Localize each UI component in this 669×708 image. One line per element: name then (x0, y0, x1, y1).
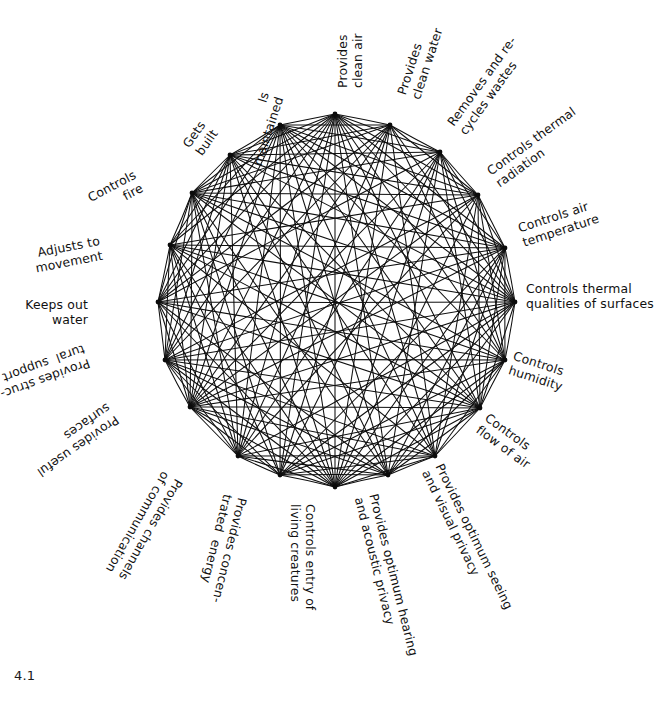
network-vertex[interactable] (503, 246, 508, 251)
network-edge (165, 360, 435, 456)
network-vertex[interactable] (163, 358, 168, 363)
network-vertex[interactable] (388, 123, 393, 128)
network-edge (192, 193, 505, 360)
node-label: Provides clean air (335, 33, 365, 88)
network-edge (230, 155, 478, 195)
network-vertex[interactable] (333, 112, 338, 117)
network-vertex[interactable] (236, 454, 241, 459)
network-edge (335, 114, 505, 248)
network-edge (165, 195, 478, 360)
node-label: Controls entry of living creatures (288, 504, 318, 610)
network-vertex[interactable] (278, 473, 283, 478)
network-edge (165, 360, 388, 475)
figure-page: Provides clean airProvides clean waterRe… (0, 0, 669, 708)
network-edge (505, 248, 515, 302)
network-vertex[interactable] (156, 300, 161, 305)
network-edge (170, 245, 435, 456)
network-vertex[interactable] (433, 454, 438, 459)
network-edge (165, 360, 280, 475)
node-label: Controls thermal qualities of surfaces (526, 281, 654, 311)
network-edge (230, 155, 335, 487)
network-edge (280, 125, 515, 302)
network-edge (170, 155, 230, 245)
network-vertex[interactable] (503, 358, 508, 363)
network-edge (192, 193, 335, 487)
network-edge (238, 456, 388, 475)
network-edge (230, 155, 480, 408)
network-edge (335, 114, 390, 125)
network-vertex[interactable] (476, 193, 481, 198)
network-edge (170, 193, 192, 245)
network-edge (388, 152, 440, 475)
network-edge (190, 193, 192, 407)
network-vertex[interactable] (228, 153, 233, 158)
network-vertex[interactable] (386, 473, 391, 478)
network-vertex[interactable] (188, 405, 193, 410)
network-edge (190, 302, 515, 407)
network-vertex[interactable] (478, 406, 483, 411)
node-label: Keeps out water (25, 297, 88, 327)
network-vertex[interactable] (168, 243, 173, 248)
network-edge (170, 245, 238, 456)
network-edge (158, 302, 335, 487)
network-vertex[interactable] (438, 150, 443, 155)
network-edge (480, 302, 515, 408)
figure-caption: 4.1 (14, 668, 35, 683)
network-edge (158, 302, 165, 360)
network-vertex[interactable] (333, 485, 338, 490)
network-vertex[interactable] (513, 300, 518, 305)
network-edge (230, 155, 505, 248)
edge-layer (158, 114, 515, 487)
network-vertex[interactable] (190, 191, 195, 196)
network-edge (478, 195, 480, 408)
network-edge (190, 125, 280, 407)
